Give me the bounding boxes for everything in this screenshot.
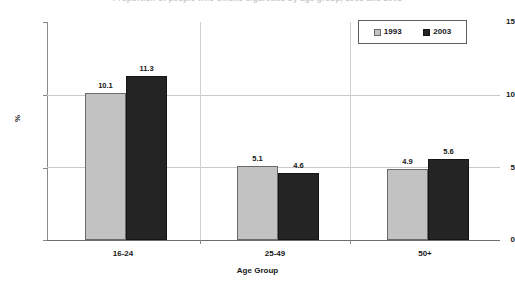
bar-value-2003-16-24: 11.3 (126, 65, 167, 73)
category-separator-2 (350, 22, 351, 241)
x-category-label-50plus: 50+ (365, 249, 485, 258)
x-tick-mark-2 (350, 240, 351, 244)
x-axis-title: Age Group (0, 266, 515, 275)
legend-swatch-icon-2003 (423, 29, 430, 36)
legend-entry-2003[interactable]: 2003 (423, 28, 451, 36)
chart-legend: 1993 2003 (358, 20, 467, 44)
bar-value-2003-50plus: 5.6 (428, 148, 469, 156)
y-axis-title: % (13, 115, 22, 122)
bar-1993-25-49[interactable] (237, 166, 278, 240)
x-axis-line (47, 240, 500, 241)
bar-2003-50plus[interactable] (428, 159, 469, 240)
bar-2003-25-49[interactable] (278, 173, 319, 240)
legend-swatch-icon-1993 (374, 29, 381, 36)
bar-chart-figure: 15 10 5 0 % 10.1 11.3 5.1 4.6 4.9 5.6 16… (0, 0, 515, 286)
legend-entry-1993[interactable]: 1993 (374, 28, 402, 36)
plot-area: 10.1 11.3 5.1 4.6 4.9 5.6 (47, 22, 500, 240)
x-category-label-25-49: 25-49 (215, 249, 335, 258)
bar-1993-50plus[interactable] (387, 169, 428, 240)
bar-1993-16-24[interactable] (85, 93, 126, 240)
bar-2003-16-24[interactable] (126, 76, 167, 240)
bar-value-1993-16-24: 10.1 (85, 82, 126, 90)
x-category-label-16-24: 16-24 (63, 249, 183, 258)
x-tick-mark-1 (200, 240, 201, 244)
bar-value-1993-25-49: 5.1 (237, 155, 278, 163)
bar-value-1993-50plus: 4.9 (387, 158, 428, 166)
category-separator-1 (200, 22, 201, 241)
legend-label-2003: 2003 (433, 28, 451, 36)
bar-value-2003-25-49: 4.6 (278, 162, 319, 170)
legend-label-1993: 1993 (384, 28, 402, 36)
